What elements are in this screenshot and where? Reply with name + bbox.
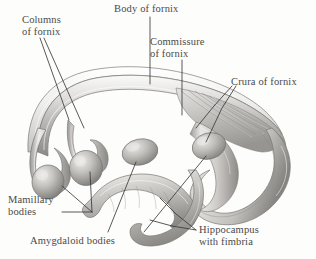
anatomical-figure: Columns of fornix Body of fornix Commiss…: [0, 0, 316, 259]
label-commissure-of-fornix: Commissure of fornix: [150, 36, 205, 59]
leader-mamillary2: [62, 186, 92, 212]
label-crura-of-fornix: Crura of fornix: [231, 76, 297, 88]
label-amygdaloid-bodies: Amygdaloid bodies: [30, 235, 115, 247]
label-hippocampus-with-fimbria: Hippocampus with fimbria: [199, 224, 259, 247]
label-mamillary-bodies: Mamillary bodies: [8, 194, 54, 217]
label-columns-of-fornix: Columns of fornix: [22, 14, 61, 37]
label-body-of-fornix: Body of fornix: [114, 3, 179, 15]
leader-amygdala-a: [108, 162, 136, 232]
